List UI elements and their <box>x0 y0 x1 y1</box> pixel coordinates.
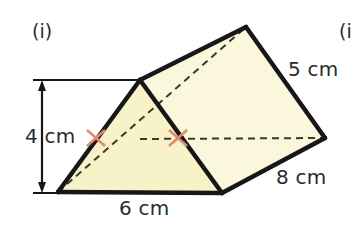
next-figure-part-label: (i <box>339 22 354 41</box>
base-dimension-label: 6 cm <box>119 198 169 218</box>
height-dimension-label: 4 cm <box>25 126 75 146</box>
height-arrowhead-top <box>38 80 46 91</box>
slant-dimension-label: 5 cm <box>288 59 338 79</box>
height-arrowhead-bottom <box>38 182 46 193</box>
figure-container: (i) (i 4 cm 6 cm 5 cm 8 cm <box>0 0 354 226</box>
triangular-prism-diagram <box>0 0 354 226</box>
length-dimension-label: 8 cm <box>276 167 326 187</box>
edge-front-base <box>58 192 222 193</box>
figure-part-label: (i) <box>32 22 52 41</box>
